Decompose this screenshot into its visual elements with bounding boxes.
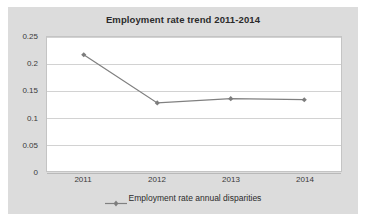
x-axis-tick-label: 2011: [74, 175, 91, 184]
gridline: [47, 173, 341, 174]
y-axis-tick-label: 0.25: [22, 32, 38, 41]
x-axis-tick-label: 2012: [148, 175, 166, 184]
chart-figure: Employment rate trend 2011-2014 00.050.1…: [8, 7, 358, 214]
y-axis-tick-label: 0.1: [27, 113, 38, 122]
chart-legend: Employment rate annual disparities: [8, 193, 358, 203]
y-axis-tick-label: 0.2: [27, 59, 38, 68]
line-series: [47, 37, 341, 171]
y-axis-tick-label: 0.15: [22, 86, 38, 95]
plot-area: [46, 36, 342, 172]
x-axis: 2011201220132014: [46, 175, 342, 189]
x-axis-tick-label: 2013: [222, 175, 240, 184]
x-axis-tick-label: 2014: [296, 175, 314, 184]
series-line: [84, 55, 305, 103]
y-axis: 00.050.10.150.20.25: [8, 36, 42, 172]
data-point-marker: [228, 96, 233, 101]
chart-title: Employment rate trend 2011-2014: [8, 14, 358, 25]
y-axis-tick-label: 0.05: [22, 140, 38, 149]
legend-label: Employment rate annual disparities: [129, 193, 262, 203]
legend-marker-icon: [105, 194, 127, 203]
y-axis-tick-label: 0: [34, 168, 38, 177]
data-point-marker: [302, 97, 307, 102]
